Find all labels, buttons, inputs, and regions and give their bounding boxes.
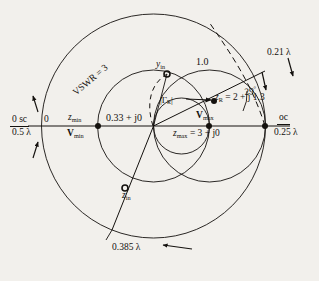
arrow-0385-lambda [163, 245, 192, 249]
z-in-subscript: in [126, 194, 131, 201]
label-origin-zero: 0 [44, 115, 49, 125]
label-angle-29: 29° [244, 85, 257, 98]
arrow-toward-load-up [33, 142, 38, 158]
label-z-min-value: 0.33 + j0 [106, 113, 142, 124]
label-v-max: Vmax [196, 111, 214, 121]
label-z-max-value: zmax = 3 + j0 [173, 129, 220, 139]
y-in-subscript: in [160, 63, 165, 70]
label-0p25-lambda: 0.25 λ [272, 128, 300, 138]
label-0p5-lambda: 0.5 λ [10, 128, 33, 138]
point-z-min [95, 123, 101, 129]
v-max-symbol: V [196, 110, 203, 120]
v-min-symbol: V [67, 128, 74, 138]
label-unity-circle: 1.0 [196, 57, 209, 68]
arrow-021-lambda [288, 58, 293, 76]
label-gamma-R: |ΓR| [160, 96, 173, 106]
v-min-subscript: min [74, 132, 84, 139]
rim-tick-0385 [106, 230, 112, 240]
label-z-R: zR = 2 + j 1.3 [215, 93, 265, 103]
smith-chart-figure: 0 sc 0.5 λ 0 oc 0.25 λ VSWR = 3 1.0 zmin… [0, 0, 319, 281]
z-min-subscript: min [72, 116, 82, 123]
v-max-subscript: max [203, 114, 214, 121]
arrow-toward-generator-up [33, 96, 38, 112]
label-0385-lambda: 0.385 λ [112, 243, 140, 253]
label-short-circuit: 0 sc [10, 115, 29, 127]
z-max-subscript: max [177, 132, 188, 139]
radial-line-zin [112, 126, 154, 230]
label-z-min: zmin [68, 113, 81, 123]
label-z-in: zin [122, 191, 131, 201]
smith-chart-canvas [0, 0, 319, 281]
z-max-expression: = 3 + j0 [188, 128, 220, 138]
label-021-lambda: 0.21 λ [267, 48, 291, 58]
label-y-in: yin [156, 60, 165, 70]
arrow-29-degrees [262, 72, 266, 90]
gamma-R-close: | [171, 95, 173, 105]
reactance-arc-dashed [209, 22, 265, 126]
label-v-min: Vmin [67, 129, 84, 139]
label-open-circuit: oc [277, 113, 290, 125]
point-oc [262, 123, 268, 129]
gamma-R-open: |Γ [160, 95, 167, 105]
